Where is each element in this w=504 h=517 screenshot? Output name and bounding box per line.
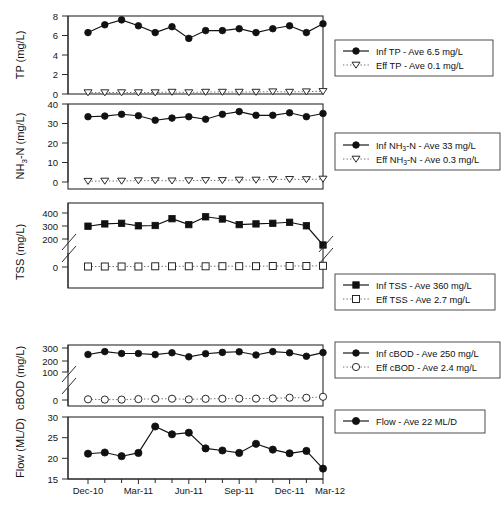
legend-tss-eff-label: Eff TSS - Ave 2.7 mg/L [376, 295, 470, 305]
cbod-ytick-300: 300 [42, 343, 58, 354]
legend-nh3: Inf NH3-N - Ave 33 mg/L Eff NH3-N - Ave … [335, 133, 500, 170]
cbod-ytick-100: 100 [42, 367, 58, 378]
nh3-axis-title: NH3-N (mg/L) [14, 113, 29, 180]
tp-ytick-8: 8 [53, 11, 58, 22]
cbod-axis-break [62, 366, 76, 394]
legend-tp-inf-label: Inf TP - Ave 6.5 mg/L [376, 47, 463, 57]
legend-cbod-inf-label: Inf cBOD - Ave 250 mg/L [376, 349, 479, 359]
multi-panel-timeseries-chart: 8 6 4 2 0 TP (mg/L) [0, 0, 504, 517]
legend-tss-inf-label: Inf TSS - Ave 360 mg/L [376, 281, 472, 291]
legend-cbod: Inf cBOD - Ave 250 mg/L Eff cBOD - Ave 2… [335, 342, 500, 378]
xtick-dec11: Dec-11 [275, 485, 305, 496]
panel-flow: 30 25 20 15 Flow (ML/D) [14, 410, 485, 496]
flow-markers [84, 423, 326, 472]
xtick-mar11: Mar-11 [124, 485, 153, 496]
tss-right-axis-break [319, 236, 333, 264]
panel-frames [68, 16, 323, 479]
legend-tss: Inf TSS - Ave 360 mg/L Eff TSS - Ave 2.7… [335, 274, 495, 310]
legend-cbod-eff-label: Eff cBOD - Ave 2.4 mg/L [376, 363, 477, 373]
tp-inf-markers [85, 17, 327, 42]
tp-ytick-6: 6 [53, 30, 58, 41]
tp-eff-markers [84, 89, 327, 96]
legend-nh3-inf-label: Inf NH3-N - Ave 33 mg/L [376, 141, 476, 152]
tss-inf-markers [85, 214, 326, 249]
panel-frame-tss [68, 203, 323, 288]
panel-tss: 400 300 200 0 TSS (mg/L) [14, 203, 495, 310]
tss-ytick-0: 0 [53, 262, 58, 273]
legend-flow: Flow - Ave 22 ML/D [335, 410, 485, 433]
nh3-y-ticks [62, 104, 68, 182]
xtick-mar12: Mar-12 [315, 485, 345, 496]
tss-axis-break [62, 234, 76, 262]
xtick-dec10: Dec-10 [73, 485, 104, 496]
panel-cbod: 300 200 100 0 cBOD (mg/L) [14, 342, 500, 410]
nh3-ytick-40: 40 [47, 99, 58, 110]
legend-flow-label: Flow - Ave 22 ML/D [376, 417, 457, 427]
tss-ytick-400: 400 [42, 208, 58, 219]
flow-ytick-25: 25 [47, 432, 58, 443]
nh3-eff-markers [84, 176, 327, 184]
legend-tp-eff-label: Eff TP - Ave 0.1 mg/L [376, 61, 464, 71]
tss-axis-title: TSS (mg/L) [14, 224, 26, 280]
nh3-ytick-0: 0 [53, 177, 58, 188]
xtick-jun11: Jun-11 [175, 485, 203, 496]
flow-ytick-20: 20 [47, 453, 58, 464]
tp-y-ticks [62, 16, 68, 94]
tp-ytick-4: 4 [53, 50, 58, 61]
flow-x-ticks [88, 479, 323, 484]
nh3-ytick-30: 30 [47, 118, 58, 129]
cbod-ytick-0: 0 [53, 395, 58, 406]
xtick-sep11: Sep-11 [224, 485, 254, 496]
flow-ytick-15: 15 [47, 474, 58, 485]
panel-tp: 8 6 4 2 0 TP (mg/L) [14, 11, 493, 100]
flow-y-ticks [62, 417, 68, 479]
flow-axis-title: Flow (ML/D) [14, 418, 26, 478]
tss-ytick-200: 200 [42, 234, 58, 245]
nh3-ytick-20: 20 [47, 138, 58, 149]
cbod-eff-markers [84, 393, 326, 403]
panel-nh3: 40 30 20 10 0 NH3-N (mg/L) [14, 99, 500, 188]
nh3-inf-markers [85, 108, 327, 123]
cbod-ytick-200: 200 [42, 356, 58, 367]
tss-ytick-300: 300 [42, 221, 58, 232]
tp-ytick-2: 2 [53, 69, 58, 80]
figure-root: 8 6 4 2 0 TP (mg/L) [0, 0, 504, 517]
nh3-ytick-10: 10 [47, 157, 58, 168]
panel-frame-flow [68, 417, 323, 479]
tss-eff-markers [85, 262, 327, 270]
cbod-y-ticks [62, 348, 68, 400]
legend-nh3-eff-label: Eff NH3-N - Ave 0.3 mg/L [376, 155, 479, 166]
tp-axis-title: TP (mg/L) [14, 31, 26, 80]
legend-tp: Inf TP - Ave 6.5 mg/L Eff TP - Ave 0.1 m… [335, 40, 493, 76]
cbod-axis-title: cBOD (mg/L) [14, 346, 26, 410]
cbod-inf-markers [85, 348, 327, 360]
flow-ytick-30: 30 [47, 412, 58, 423]
